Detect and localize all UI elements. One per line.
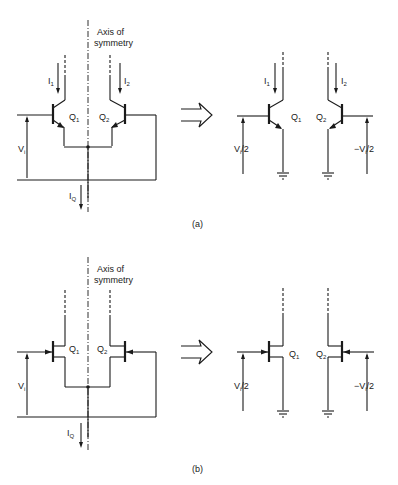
q2-label: Q2 — [99, 112, 110, 123]
vi-label: Vi — [18, 144, 25, 155]
vi-label-b: Vi — [18, 381, 25, 392]
vi-half-label: Vi/2 — [234, 144, 249, 155]
caption-a: (a) — [192, 219, 203, 229]
transform-arrow-icon — [181, 103, 212, 127]
half-circuit-q2-bjt: Q2 I2 −Vi/2 — [316, 52, 374, 179]
neg-vi-half-label-b: −Vi/2 — [354, 381, 374, 392]
q2-half-label: Q2 — [316, 112, 327, 123]
caption-b: (b) — [192, 464, 203, 474]
half-circuit-q2-jfet: Q2 −Vi/2 — [316, 288, 374, 417]
q1-label: Q1 — [69, 112, 80, 123]
half-circuit-q1-bjt: Q1 I1 Vi/2 — [234, 52, 302, 179]
transistor-q2-jfet: Q2 — [97, 290, 156, 417]
panel-b: Axis of symmetry Q1 Q2 — [17, 257, 374, 474]
panel-a: Axis of symmetry Q1 I1 — [17, 20, 374, 229]
i1-label: I1 — [48, 76, 55, 87]
q1-label-b: Q1 — [69, 344, 80, 355]
vi-half-label-b: Vi/2 — [234, 381, 249, 392]
i2-half-label: I2 — [341, 76, 348, 87]
transistor-q2-bjt: Q2 — [99, 55, 156, 180]
axis-label-line2-b: symmetry — [94, 275, 133, 285]
axis-label-line1-b: Axis of — [97, 264, 125, 274]
i2-label: I2 — [124, 76, 131, 87]
axis-label-line2: symmetry — [94, 38, 133, 48]
neg-vi-half-label: −Vi/2 — [354, 144, 374, 155]
iq-label: IQ — [69, 191, 77, 202]
q2-label-b: Q2 — [97, 344, 108, 355]
axis-label-line1: Axis of — [97, 27, 125, 37]
iq-label-b: IQ — [67, 428, 75, 439]
i1-half-label: I1 — [264, 76, 271, 87]
q1-half-label-b: Q1 — [289, 349, 300, 360]
half-circuit-q1-jfet: Q1 Vi/2 — [234, 288, 300, 417]
q1-half-label: Q1 — [291, 112, 302, 123]
transform-arrow-icon-b — [181, 340, 212, 364]
circuit-figure: Axis of symmetry Q1 I1 — [0, 0, 398, 485]
q2-half-label-b: Q2 — [316, 349, 327, 360]
